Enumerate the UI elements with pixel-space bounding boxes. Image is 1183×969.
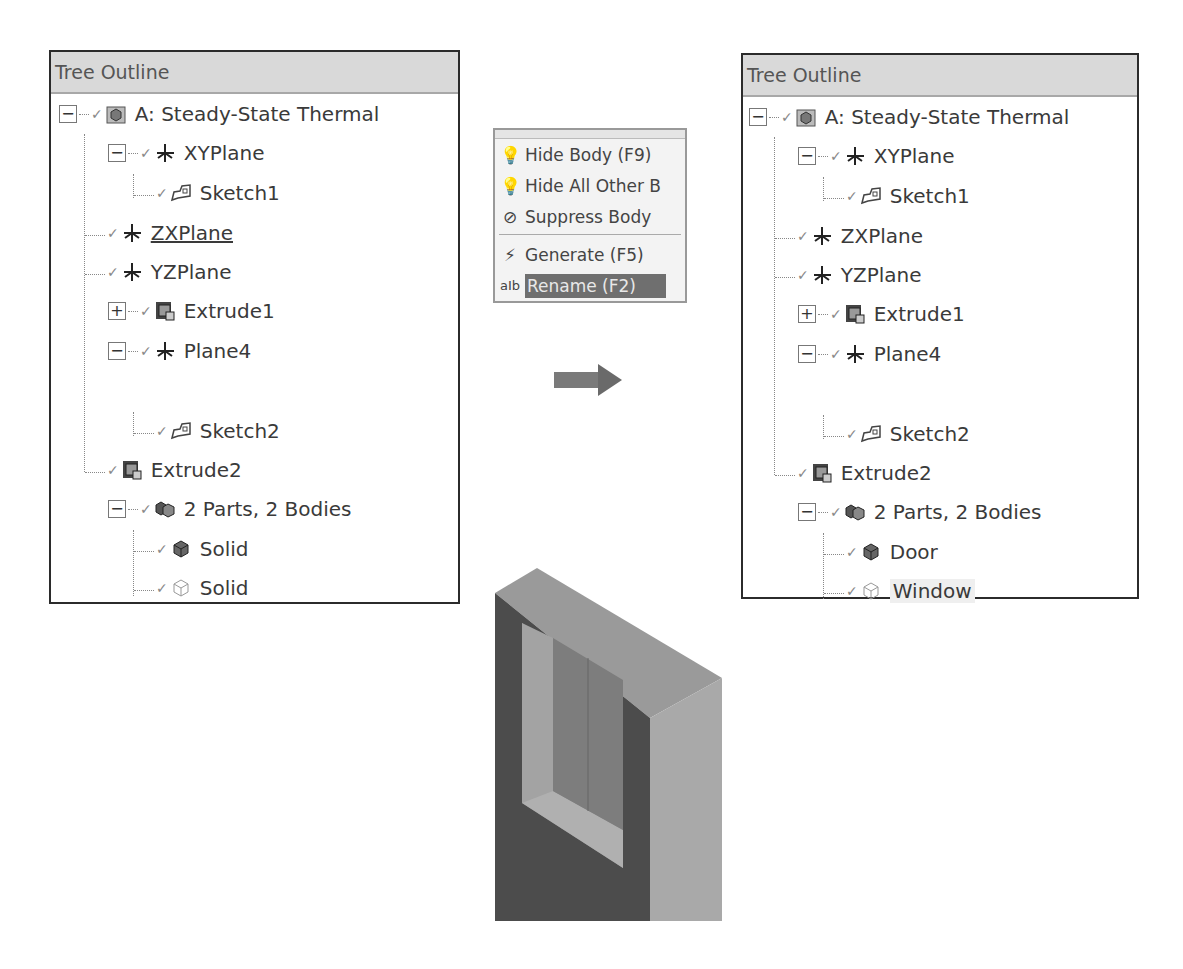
- tree-item-plane4[interactable]: − ✓ Plane4: [798, 335, 941, 373]
- tree-item-yzplane[interactable]: ✓ YZPlane: [85, 253, 232, 291]
- check-icon: ✓: [156, 580, 168, 596]
- rename-icon: aIb: [499, 278, 521, 293]
- menu-item-suppress-body[interactable]: ⊘ Suppress Body: [495, 201, 685, 232]
- check-icon: ✓: [830, 346, 842, 362]
- extrude-icon: [121, 459, 143, 481]
- tree-item-label: Sketch1: [200, 181, 280, 205]
- sketch-icon: [860, 185, 882, 207]
- tree-item-sketch1[interactable]: ✓ Sketch1: [824, 177, 970, 215]
- tree-item-door[interactable]: ✓ Door: [824, 533, 938, 571]
- collapse-icon[interactable]: −: [798, 147, 816, 165]
- lightbulb-icon: 💡: [499, 145, 521, 165]
- collapse-icon[interactable]: −: [108, 342, 126, 360]
- expand-icon[interactable]: +: [108, 302, 126, 320]
- tree-item-solid-1[interactable]: ✓ Solid: [134, 530, 248, 568]
- plane-icon: [811, 264, 833, 286]
- check-icon: ✓: [107, 225, 119, 241]
- tree-item-solid-2[interactable]: ✓ Solid: [134, 569, 248, 607]
- expand-icon[interactable]: +: [798, 305, 816, 323]
- plane-icon: [121, 222, 143, 244]
- plane-icon: [121, 261, 143, 283]
- tree-item-extrude1[interactable]: + ✓ Extrude1: [108, 292, 275, 330]
- tree-item-parts[interactable]: − ✓ 2 Parts, 2 Bodies: [798, 493, 1041, 531]
- tree-item-label: Window: [890, 579, 975, 603]
- tree-item-sketch2[interactable]: ✓ Sketch2: [824, 415, 970, 453]
- tree-item-label: Door: [890, 540, 938, 564]
- tree-item-sketch2[interactable]: ✓ Sketch2: [134, 412, 280, 450]
- menu-item-hide-all-other[interactable]: 💡 Hide All Other B: [495, 170, 685, 201]
- plane-icon: [154, 142, 176, 164]
- tree-item-yzplane[interactable]: ✓ YZPlane: [775, 256, 922, 294]
- tree-item-label: ZXPlane: [151, 221, 233, 245]
- collapse-icon[interactable]: −: [108, 500, 126, 518]
- tree-item-extrude2[interactable]: ✓ Extrude2: [85, 451, 242, 489]
- tree-item-label: Extrude1: [184, 299, 275, 323]
- tree-item-xyplane[interactable]: − ✓ XYPlane: [798, 137, 955, 175]
- solid-body-icon: [170, 538, 192, 560]
- model-icon: [105, 103, 127, 125]
- check-icon: ✓: [797, 267, 809, 283]
- tree-item-label: YZPlane: [151, 260, 232, 284]
- tree-item-sketch1[interactable]: ✓ Sketch1: [134, 174, 280, 212]
- tree-item-parts[interactable]: − ✓ 2 Parts, 2 Bodies: [108, 490, 351, 528]
- plane-icon: [844, 145, 866, 167]
- collapse-icon[interactable]: −: [59, 105, 77, 123]
- sketch-icon: [170, 420, 192, 442]
- check-icon: ✓: [830, 504, 842, 520]
- plane-icon: [154, 340, 176, 362]
- door-window-3d-model: [493, 568, 725, 923]
- check-icon: ✓: [140, 501, 152, 517]
- tree-item-zxplane[interactable]: ✓ ZXPlane: [775, 217, 923, 255]
- tree-item-root[interactable]: − ✓ A: Steady-State Thermal: [749, 98, 1069, 136]
- collapse-icon[interactable]: −: [798, 345, 816, 363]
- check-icon: ✓: [107, 264, 119, 280]
- sketch-icon: [860, 423, 882, 445]
- collapse-icon[interactable]: −: [749, 108, 767, 126]
- check-icon: ✓: [140, 145, 152, 161]
- tree-item-label: Extrude2: [151, 458, 242, 482]
- menu-item-hide-body[interactable]: 💡 Hide Body (F9): [495, 139, 685, 170]
- tree-item-label: YZPlane: [841, 263, 922, 287]
- tree-item-label: Solid: [200, 537, 249, 561]
- menu-title-strip: [495, 130, 685, 139]
- tree-item-extrude2[interactable]: ✓ Extrude2: [775, 454, 932, 492]
- check-icon: ✓: [107, 462, 119, 478]
- menu-item-rename[interactable]: aIb Rename (F2): [495, 270, 685, 301]
- tree-item-zxplane[interactable]: ✓ ZXPlane: [85, 214, 233, 252]
- model-icon: [795, 106, 817, 128]
- tree-item-xyplane[interactable]: − ✓ XYPlane: [108, 134, 265, 172]
- tree-item-label: Sketch2: [200, 419, 280, 443]
- collapse-icon[interactable]: −: [798, 503, 816, 521]
- tree-item-extrude1[interactable]: + ✓ Extrude1: [798, 295, 965, 333]
- tree-item-label: Extrude2: [841, 461, 932, 485]
- check-icon: ✓: [91, 106, 103, 122]
- collapse-icon[interactable]: −: [108, 144, 126, 162]
- suppress-icon: ⊘: [499, 207, 521, 227]
- tree-item-label: 2 Parts, 2 Bodies: [184, 497, 352, 521]
- tree-item-plane4[interactable]: − ✓ Plane4: [108, 332, 251, 370]
- check-icon: ✓: [846, 583, 858, 599]
- tree-item-label: Sketch2: [890, 422, 970, 446]
- check-icon: ✓: [156, 541, 168, 557]
- hidden-body-icon: [170, 577, 192, 599]
- check-icon: ✓: [846, 544, 858, 560]
- tree-item-label: Solid: [200, 576, 249, 600]
- check-icon: ✓: [797, 465, 809, 481]
- check-icon: ✓: [140, 303, 152, 319]
- panel-title: Tree Outline: [743, 55, 1137, 97]
- tree-item-label: XYPlane: [874, 144, 955, 168]
- check-icon: ✓: [797, 228, 809, 244]
- check-icon: ✓: [830, 148, 842, 164]
- panel-title: Tree Outline: [51, 52, 458, 94]
- tree-item-window[interactable]: ✓ Window: [824, 572, 975, 610]
- parts-icon: [844, 501, 866, 523]
- tree-item-root[interactable]: − ✓ A: Steady-State Thermal: [59, 95, 379, 133]
- solid-body-icon: [860, 541, 882, 563]
- check-icon: ✓: [140, 343, 152, 359]
- tree-item-label: Plane4: [184, 339, 252, 363]
- tree-item-label: Extrude1: [874, 302, 965, 326]
- menu-item-generate[interactable]: ⚡ Generate (F5): [495, 239, 685, 270]
- tree-item-label: A: Steady-State Thermal: [135, 102, 380, 126]
- arrow-right-icon: [552, 362, 624, 398]
- extrude-icon: [154, 300, 176, 322]
